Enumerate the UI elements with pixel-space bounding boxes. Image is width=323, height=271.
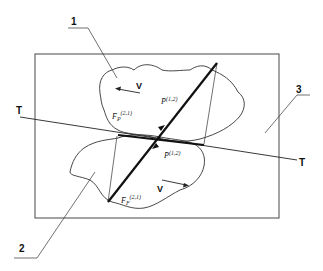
upper-body-1: [100, 65, 245, 141]
arrowhead-icon: [115, 87, 121, 92]
velocity-label-upper: V: [136, 81, 142, 91]
force-label-upper-normal: P̄(1,2): [160, 96, 177, 106]
construction-line: [204, 63, 217, 144]
force-label-upper-friction: F̄P(2,1): [111, 110, 132, 122]
velocity-label-lower: V: [157, 184, 163, 194]
callout-leader-2: [37, 172, 95, 258]
force-label-lower-normal: P̄(1,2): [163, 150, 180, 160]
tangent-contact-thick: [118, 135, 204, 145]
callout-label-2: 2: [19, 243, 25, 254]
callout-label-3: 3: [296, 84, 302, 95]
tangent-label-right: T: [299, 157, 305, 168]
force-label-lower-friction: F̄F(2,1): [120, 194, 141, 206]
tangent-label-left: T: [16, 105, 22, 116]
callout-label-1: 1: [71, 16, 77, 27]
callout-leader-1: [88, 28, 117, 78]
contact-point: [157, 136, 160, 139]
contact-force-diagram: 1 2 3 T T V V P̄(1,2) F̄P(2,1) P̄(1,2) F…: [0, 0, 323, 271]
callout-leader-3: [265, 95, 297, 133]
velocity-arrow-lower: [162, 180, 186, 185]
